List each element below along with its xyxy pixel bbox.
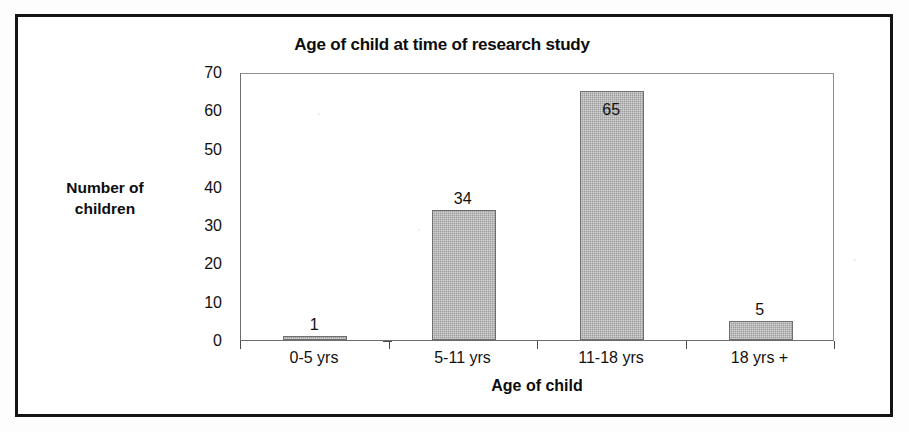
bar-0[interactable]	[283, 336, 347, 340]
x-axis-tick-0	[240, 341, 241, 349]
bar-2[interactable]	[580, 91, 644, 340]
chart-title-text: Age of child at time of research study	[294, 35, 590, 54]
y-axis: 0 10 20 30 40 50 60 70	[168, 63, 230, 351]
scan-speckle	[854, 259, 856, 261]
chart-title: Age of child at time of research study	[18, 35, 890, 55]
x-axis-tick-4	[834, 341, 835, 349]
x-category-label-1: 5-11 yrs	[389, 349, 537, 367]
y-tick-label-40: 40	[168, 178, 222, 198]
bar-value-label-0: 1	[279, 316, 349, 334]
y-axis-title-line-2: children	[40, 198, 170, 219]
y-axis-title-line-1: Number of	[40, 177, 170, 198]
scan-speckle	[418, 229, 420, 231]
y-tick-label-10: 10	[168, 293, 222, 313]
y-tick-label-50: 50	[168, 140, 222, 160]
y-tick-label-60: 60	[168, 101, 222, 121]
x-axis-tick-2	[537, 341, 538, 349]
scan-speckle	[318, 113, 320, 115]
bar-3[interactable]	[729, 321, 793, 340]
bar-value-label-1: 34	[428, 190, 498, 208]
x-category-label-3: 18 yrs +	[686, 349, 834, 367]
y-axis-title: Number of children	[40, 177, 170, 219]
bar-chart-figure: Age of child at time of research study N…	[18, 17, 890, 414]
bar-value-label-3: 5	[725, 301, 795, 319]
y-tick-label-30: 30	[168, 216, 222, 236]
bar-value-label-2: 65	[576, 101, 646, 119]
y-tick-label-0: 0	[168, 331, 222, 351]
x-category-label-0: 0-5 yrs	[240, 349, 388, 367]
y-tick-label-20: 20	[168, 254, 222, 274]
x-axis-tick-1	[389, 341, 390, 349]
document-page-frame: Age of child at time of research study N…	[15, 14, 893, 417]
x-axis-tick-3	[686, 341, 687, 349]
y-tick-mark-0	[383, 341, 392, 342]
x-axis-title: Age of child	[240, 377, 834, 395]
x-category-label-2: 11-18 yrs	[537, 349, 685, 367]
bar-1[interactable]	[432, 210, 496, 340]
y-tick-label-70: 70	[168, 63, 222, 83]
